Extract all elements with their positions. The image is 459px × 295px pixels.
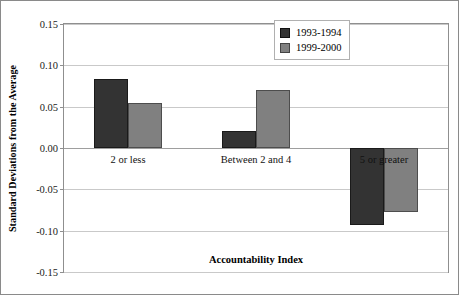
y-tick-label: -0.10 — [36, 225, 58, 236]
x-category-label: 5 or greater — [360, 154, 408, 165]
bar-group — [94, 24, 162, 272]
legend-item: 1999-2000 — [280, 40, 342, 55]
y-tick-label: 0.00 — [40, 143, 58, 154]
bar-group — [350, 24, 418, 272]
bar — [222, 131, 256, 148]
y-axis-title: Standard Deviations from the Average — [1, 1, 23, 295]
y-tick-label: 0.15 — [40, 19, 58, 30]
plot-area: 0.150.100.050.00-0.05-0.10-0.152 or less… — [63, 23, 449, 273]
legend-label: 1999-2000 — [296, 42, 342, 53]
y-tick-mark — [60, 231, 64, 232]
bar — [256, 90, 290, 148]
legend-item: 1993-1994 — [280, 25, 342, 40]
chart-figure: Standard Deviations from the Average 0.1… — [0, 0, 459, 295]
legend-swatch-1993-1994 — [280, 28, 290, 38]
y-tick-mark — [60, 24, 64, 25]
bar-group — [222, 24, 290, 272]
bar — [128, 103, 162, 148]
legend-label: 1993-1994 — [296, 27, 342, 38]
x-axis-title: Accountability Index — [63, 254, 449, 265]
x-category-label: 2 or less — [111, 154, 146, 165]
y-tick-mark — [60, 107, 64, 108]
y-tick-label: 0.10 — [40, 60, 58, 71]
bar — [94, 79, 128, 148]
y-tick-label: 0.05 — [40, 101, 58, 112]
chart-legend: 1993-1994 1999-2000 — [274, 20, 350, 60]
y-tick-mark — [60, 148, 64, 149]
y-tick-mark — [60, 65, 64, 66]
y-tick-mark — [60, 272, 64, 273]
x-category-label: Between 2 and 4 — [221, 154, 291, 165]
legend-swatch-1999-2000 — [280, 43, 290, 53]
y-tick-mark — [60, 189, 64, 190]
y-tick-label: -0.05 — [36, 184, 58, 195]
gridline: -0.15 — [64, 272, 448, 273]
y-tick-label: -0.15 — [36, 267, 58, 278]
